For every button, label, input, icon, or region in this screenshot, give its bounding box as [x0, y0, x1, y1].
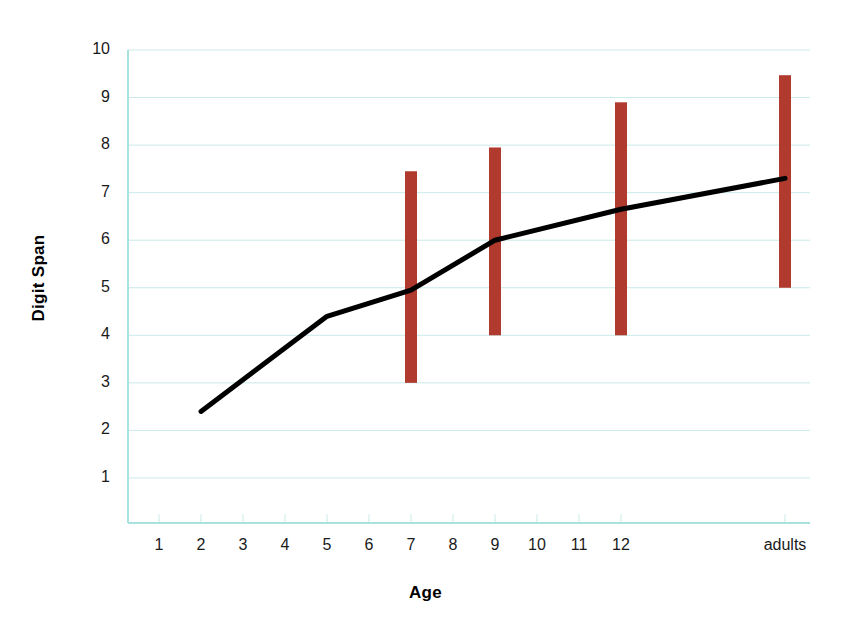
- y-tick-label: 3: [70, 373, 110, 391]
- y-tick-label: 1: [70, 468, 110, 486]
- x-tick-label: adults: [755, 536, 815, 554]
- y-tick-label: 5: [70, 278, 110, 296]
- y-tick-label: 4: [70, 325, 110, 343]
- x-tick-label: 12: [591, 536, 651, 554]
- y-axis-title-label: Digit Span: [29, 193, 49, 363]
- range-bars-group: [405, 75, 791, 383]
- gridlines-group: [128, 50, 810, 523]
- range-bar: [615, 102, 627, 335]
- y-tick-label: 9: [70, 88, 110, 106]
- y-tick-label: 10: [70, 40, 110, 58]
- chart-container: Digit Span Age 12345678910 1234567891011…: [0, 0, 851, 633]
- y-tick-label: 6: [70, 230, 110, 248]
- y-tick-label: 2: [70, 420, 110, 438]
- axis-lines-group: [128, 50, 810, 523]
- y-tick-label: 8: [70, 135, 110, 153]
- y-axis-title: Digit Span: [24, 180, 54, 380]
- y-tick-label: 7: [70, 183, 110, 201]
- range-bar: [405, 171, 417, 383]
- x-axis-title-label: Age: [0, 583, 851, 603]
